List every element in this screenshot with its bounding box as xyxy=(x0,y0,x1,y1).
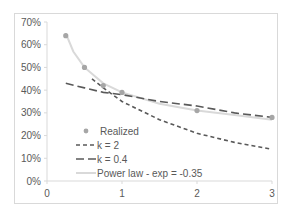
y-tick-label: 40% xyxy=(21,85,41,96)
y-tick-label: 30% xyxy=(21,107,41,118)
legend-marker-icon xyxy=(84,129,89,134)
y-tick-label: 50% xyxy=(21,62,41,73)
data-point-realized xyxy=(194,108,199,113)
legend-label: Power law - exp = -0.35 xyxy=(97,168,203,179)
data-point-realized xyxy=(63,33,68,38)
data-point-realized xyxy=(269,115,274,120)
y-tick-label: 10% xyxy=(21,153,41,164)
x-tick-label: 3 xyxy=(269,188,275,199)
x-tick-label: 0 xyxy=(44,188,50,199)
x-tick-label: 1 xyxy=(119,188,125,199)
y-tick-label: 70% xyxy=(21,17,41,28)
legend-label: Realized xyxy=(100,126,139,137)
chart: 0%10%20%30%40%50%60%70%0123Realizedk = 2… xyxy=(0,0,292,211)
legend-label: k = 0.4 xyxy=(97,154,128,165)
x-tick-label: 2 xyxy=(194,188,200,199)
data-point-realized xyxy=(101,83,106,88)
data-point-realized xyxy=(82,65,87,70)
y-tick-label: 60% xyxy=(21,39,41,50)
y-tick-label: 20% xyxy=(21,130,41,141)
data-point-realized xyxy=(119,90,124,95)
y-tick-label: 0% xyxy=(27,176,42,187)
legend-label: k = 2 xyxy=(97,140,119,151)
